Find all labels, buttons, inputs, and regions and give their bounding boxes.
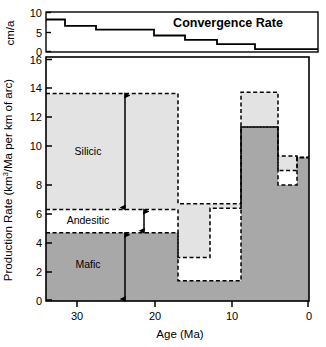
production-rate-panel: Silicic Andesitic Mafic 16 14 12 10 8	[1, 54, 312, 341]
figure-container: 10 5 0 cm/a Convergence Rate	[0, 0, 326, 347]
production-y-axis-label: Production Rate (km3/Ma per km of arc)	[1, 79, 14, 281]
production-xtick-10: 10	[226, 310, 238, 322]
production-rate-figure: 10 5 0 cm/a Convergence Rate	[0, 0, 326, 347]
production-ytick-16: 16	[30, 54, 42, 66]
convergence-ytick-10: 10	[30, 7, 42, 19]
production-xtick-30: 30	[71, 310, 83, 322]
silicic-region-label: Silicic	[75, 145, 102, 157]
convergence-rate-title: Convergence Rate	[173, 16, 283, 30]
production-y-axis-label-tail: /Ma per km of arc)	[2, 79, 14, 172]
production-ytick-0: 0	[36, 295, 42, 307]
convergence-rate-panel: 10 5 0 cm/a Convergence Rate	[4, 7, 318, 58]
production-ytick-6: 6	[36, 208, 42, 220]
convergence-axis-label: cm/a	[4, 20, 16, 46]
production-xtick-0: 0	[306, 310, 312, 322]
production-x-axis-label: Age (Ma)	[156, 328, 203, 340]
production-ytick-10: 10	[30, 140, 42, 152]
mafic-region-label: Mafic	[75, 258, 100, 270]
andesitic-region-label: Andesitic	[67, 214, 110, 226]
production-ytick-14: 14	[30, 82, 42, 94]
production-ytick-2: 2	[36, 266, 42, 278]
production-ytick-8: 8	[36, 179, 42, 191]
production-ytick-4: 4	[36, 237, 42, 249]
production-xtick-20: 20	[149, 310, 161, 322]
production-ytick-12: 12	[30, 111, 42, 123]
production-x-ticks	[77, 301, 308, 307]
convergence-ytick-5: 5	[36, 27, 42, 39]
production-y-axis-label-main: Production Rate (km	[2, 176, 14, 281]
